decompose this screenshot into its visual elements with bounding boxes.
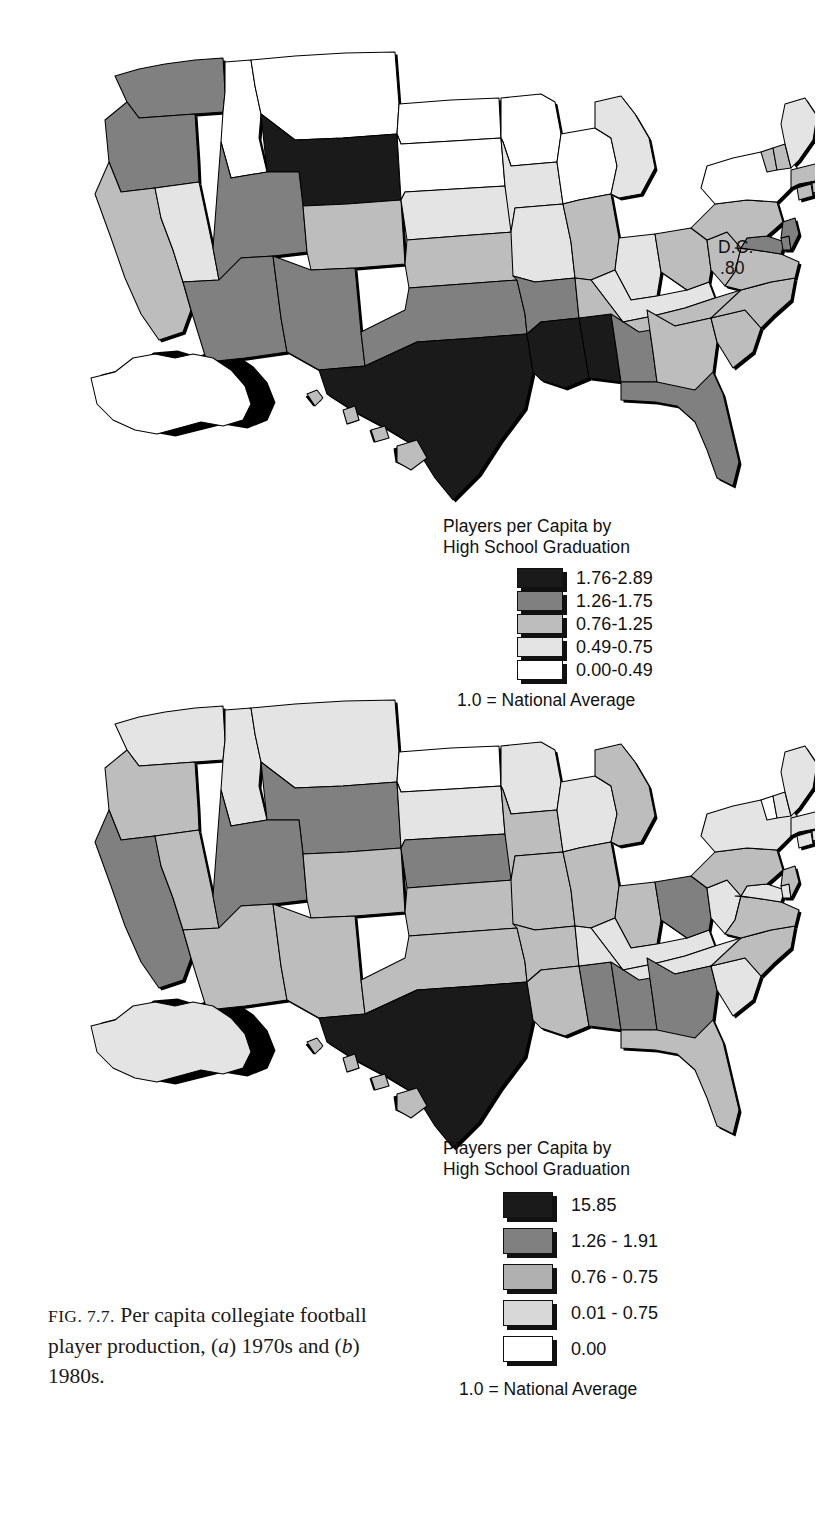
legend-label: 0.01 - 0.75: [571, 1303, 658, 1324]
legend-row: 0.76-1.25: [443, 613, 653, 635]
dc-annotation-value: .80: [720, 259, 745, 279]
legend-swatch-wrap: [503, 1228, 553, 1254]
caption-panel-between: ) 1970s and (: [229, 1334, 342, 1358]
legend-swatch-wrap: [503, 1264, 553, 1290]
legend-rows-a: 1.76-2.891.26-1.750.76-1.250.49-0.750.00…: [443, 567, 653, 681]
state-fl: [621, 372, 739, 486]
legend-label: 0.49-0.75: [576, 637, 653, 658]
legend-1980s: Players per Capita by High School Gradua…: [443, 1138, 658, 1400]
legend-swatch: [517, 614, 563, 634]
figure-caption: FIG. 7.7. Per capita collegiate football…: [48, 1300, 378, 1391]
legend-label: 0.76 - 0.75: [571, 1267, 658, 1288]
legend-row: 1.76-2.89: [443, 567, 653, 589]
caption-panel-a-letter: a: [218, 1334, 229, 1358]
state-ks: [405, 880, 517, 936]
state-mn: [501, 94, 561, 166]
state-co: [303, 848, 405, 918]
legend-footer-b: 1.0 = National Average: [459, 1379, 658, 1400]
choropleth-map-1980s: [55, 690, 815, 1160]
us-map-svg-b: [55, 690, 815, 1160]
state-wi: [557, 128, 617, 204]
legend-title-b: Players per Capita by High School Gradua…: [443, 1138, 658, 1180]
legend-swatch: [517, 568, 563, 588]
legend-title-a: Players per Capita by High School Gradua…: [443, 516, 653, 558]
legend-swatch-wrap: [517, 591, 563, 611]
legend-row: 0.00: [443, 1333, 658, 1365]
legend-swatch: [503, 1228, 553, 1254]
dc-annotation-label: D.C.: [718, 238, 753, 258]
us-map-svg-a: [55, 42, 815, 512]
legend-swatch: [503, 1192, 553, 1218]
state-ne: [401, 186, 513, 240]
state-co: [303, 200, 405, 270]
legend-label: 0.00-0.49: [576, 660, 653, 681]
legend-label: 0.76-1.25: [576, 614, 653, 635]
legend-swatch-wrap: [503, 1192, 553, 1218]
legend-swatch-wrap: [503, 1300, 553, 1326]
legend-label: 1.26-1.75: [576, 591, 653, 612]
state-la: [527, 318, 589, 388]
legend-1970s: Players per Capita by High School Gradua…: [443, 516, 653, 711]
legend-swatch: [503, 1300, 553, 1326]
state-ri: [812, 830, 815, 841]
state-wi: [557, 776, 617, 852]
legend-swatch: [503, 1336, 553, 1362]
legend-row: 0.00-0.49: [443, 659, 653, 681]
caption-figure-number: FIG. 7.7.: [48, 1306, 115, 1326]
legend-label: 0.00: [571, 1339, 606, 1360]
state-fl: [621, 1020, 739, 1134]
legend-swatch-wrap: [517, 660, 563, 680]
legend-swatch: [517, 591, 563, 611]
legend-swatch-wrap: [517, 637, 563, 657]
legend-label: 15.85: [571, 1195, 617, 1216]
legend-swatch: [517, 637, 563, 657]
legend-row: 15.85: [443, 1189, 658, 1221]
legend-swatch-wrap: [517, 568, 563, 588]
caption-panel-b-letter: b: [342, 1334, 353, 1358]
figure-7-7: D.C. .80 Players per Capita by High Scho…: [0, 0, 837, 1516]
state-nd: [397, 746, 501, 792]
legend-swatch-wrap: [517, 614, 563, 634]
legend-row: 1.26 - 1.91: [443, 1225, 658, 1257]
legend-swatch-wrap: [503, 1336, 553, 1362]
legend-label: 1.26 - 1.91: [571, 1231, 658, 1252]
state-ks: [405, 232, 517, 288]
choropleth-map-1970s: [55, 42, 815, 512]
legend-row: 0.49-0.75: [443, 636, 653, 658]
legend-swatch: [517, 660, 563, 680]
state-ri: [812, 182, 815, 193]
legend-swatch: [503, 1264, 553, 1290]
legend-row: 0.01 - 0.75: [443, 1297, 658, 1329]
state-la: [527, 966, 589, 1036]
state-nd: [397, 98, 501, 144]
state-ne: [401, 834, 513, 888]
legend-row: 0.76 - 0.75: [443, 1261, 658, 1293]
legend-rows-b: 15.851.26 - 1.910.76 - 0.750.01 - 0.750.…: [443, 1189, 658, 1365]
state-mn: [501, 742, 561, 814]
legend-label: 1.76-2.89: [576, 568, 653, 589]
legend-row: 1.26-1.75: [443, 590, 653, 612]
